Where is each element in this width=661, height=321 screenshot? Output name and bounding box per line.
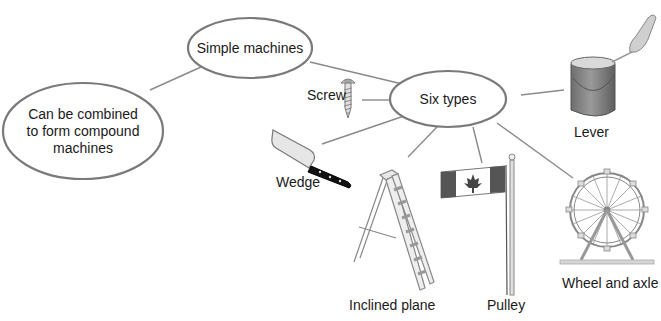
node-compound-line-2: to form compound [27, 123, 140, 140]
label-wedge: Wedge [276, 174, 320, 190]
connector-types-lever [521, 90, 564, 95]
label-lever: Lever [574, 124, 609, 140]
step-ladder-icon [354, 170, 434, 290]
node-compound-line-1: Can be combined [27, 106, 140, 123]
connector-types-wedge [322, 115, 407, 144]
node-root-label: Simple machines [197, 40, 304, 56]
label-inclined-plane: Inclined plane [349, 297, 435, 313]
label-screw: Screw [307, 87, 346, 103]
connector-types-pulley [473, 127, 482, 163]
ferris-wheel-icon [560, 169, 654, 264]
connector-root-compound [150, 67, 201, 90]
node-compound-line-3: machines [27, 140, 140, 157]
label-wheel-and-axle: Wheel and axle [562, 275, 659, 291]
paint-can-lever-icon [571, 15, 656, 116]
node-compound-label: Can be combined to form compound machine… [27, 106, 140, 157]
connector-types-inclined-plane [408, 127, 437, 157]
label-pulley: Pulley [487, 297, 525, 313]
connector-types-wheel [497, 123, 573, 178]
node-types-label: Six types [420, 91, 477, 107]
concept-map [0, 0, 661, 321]
flagpole-icon [441, 154, 515, 295]
